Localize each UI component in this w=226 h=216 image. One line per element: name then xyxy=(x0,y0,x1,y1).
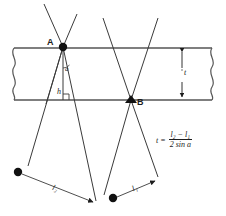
formula-block: t = l₂ − l₁ 2 sin a xyxy=(156,131,193,150)
label-angle-a: a xyxy=(65,66,69,73)
label-thickness-t: t xyxy=(184,69,186,77)
formula-denominator: 2 sin a xyxy=(168,140,193,149)
ray-incident-b-left xyxy=(103,18,131,100)
label-height-h: h xyxy=(57,88,61,96)
ray-b-down-right xyxy=(131,100,158,177)
node-point-b xyxy=(125,95,137,103)
formula-lhs: t = xyxy=(156,136,166,145)
slab-right-break-edge xyxy=(211,48,214,100)
node-probe-right xyxy=(109,194,117,202)
node-point-a xyxy=(59,43,67,51)
ray-b-down-left xyxy=(104,100,131,195)
node-probe-left xyxy=(14,168,22,176)
figure-container: A B a h t l₂ l₁ t = l₂ − l₁ 2 sin a xyxy=(0,0,226,216)
ray-incident-a-right xyxy=(63,14,77,47)
slab-left-break-edge xyxy=(13,48,16,100)
label-point-a: A xyxy=(47,38,54,47)
ray-incident-b-right xyxy=(131,18,158,100)
formula-fraction: l₂ − l₁ 2 sin a xyxy=(168,131,193,150)
diagram-svg xyxy=(0,0,226,216)
formula-numerator: l₂ − l₁ xyxy=(169,131,192,140)
label-point-b: B xyxy=(137,98,144,107)
right-angle-mark xyxy=(63,94,69,100)
